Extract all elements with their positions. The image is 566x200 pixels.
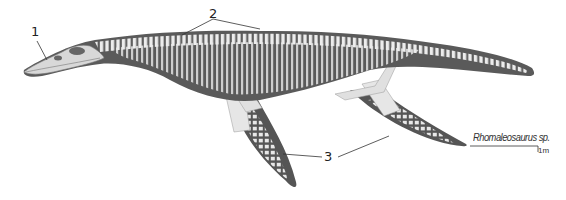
callout-line-1 [37, 41, 47, 60]
callout-line-3b [338, 136, 389, 157]
callout-line-3a [283, 154, 322, 157]
scale-label: 1m [538, 146, 549, 155]
species-label: Rhomaleosaurus sp. [473, 131, 550, 143]
callout-label-3: 3 [324, 149, 332, 164]
callout-line-2b [213, 19, 260, 29]
callout-label-1: 1 [31, 24, 39, 39]
plesiosaur-skeleton-illustration [0, 0, 566, 200]
callout-label-2: 2 [209, 6, 217, 21]
